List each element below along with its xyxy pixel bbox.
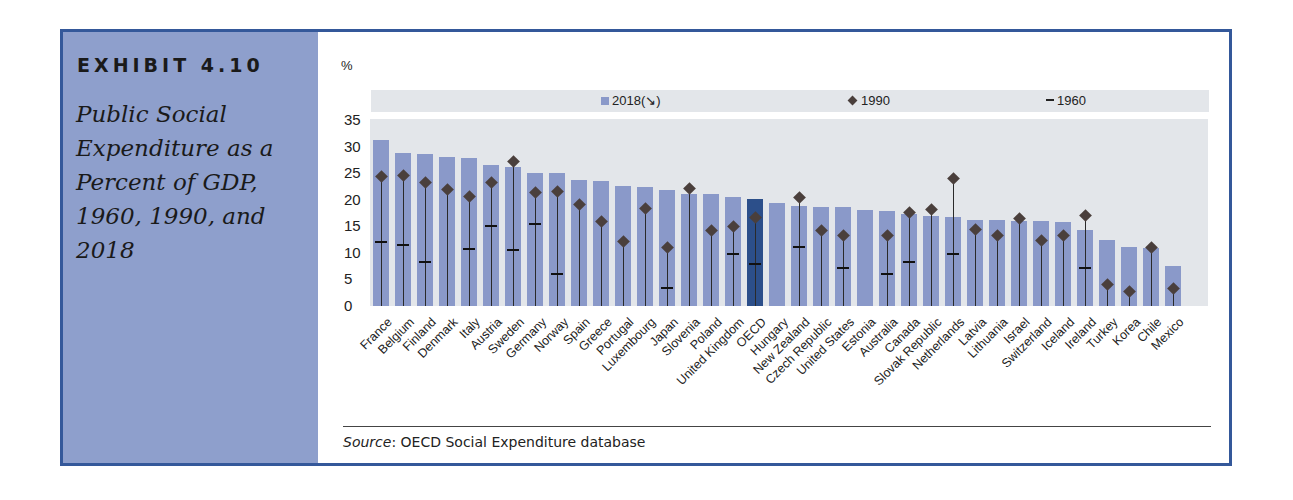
marker-1960 bbox=[463, 248, 475, 250]
y-tick-label: 5 bbox=[344, 270, 384, 287]
marker-1960 bbox=[793, 246, 805, 248]
stem-line bbox=[557, 191, 558, 306]
y-axis-unit: % bbox=[341, 58, 353, 73]
marker-1960 bbox=[661, 287, 673, 289]
stem-line bbox=[953, 179, 954, 306]
marker-1990 bbox=[1079, 209, 1092, 222]
source-note: Source: OECD Social Expenditure database bbox=[343, 434, 645, 450]
marker-1960 bbox=[1079, 267, 1091, 269]
stem-line bbox=[1019, 219, 1020, 306]
marker-1990 bbox=[507, 155, 520, 168]
stem-line bbox=[491, 183, 492, 306]
chart: % 2018(↘) 1990 1960 Source: OECD Social … bbox=[318, 32, 1229, 463]
marker-1960 bbox=[749, 263, 761, 265]
exhibit-title: Public Social Expenditure as a Percent o… bbox=[76, 97, 311, 267]
bar-2018 bbox=[769, 203, 785, 306]
legend-item-1960: 1960 bbox=[1046, 93, 1086, 108]
bar-2018 bbox=[857, 210, 873, 306]
stem-line bbox=[447, 189, 448, 306]
y-tick-label: 30 bbox=[344, 138, 384, 155]
marker-1990 bbox=[925, 203, 938, 216]
y-tick-label: 35 bbox=[344, 111, 384, 128]
stem-line bbox=[425, 182, 426, 306]
stem-line bbox=[975, 230, 976, 306]
legend-item-2018: 2018(↘) bbox=[601, 93, 661, 108]
stem-line bbox=[887, 235, 888, 306]
legend-item-1990: 1990 bbox=[849, 93, 890, 108]
exhibit-sidebar: EXHIBIT 4.10 Public Social Expenditure a… bbox=[63, 32, 318, 463]
stem-line bbox=[733, 227, 734, 306]
marker-1990 bbox=[793, 191, 806, 204]
stem-line bbox=[1041, 241, 1042, 306]
marker-1960 bbox=[727, 253, 739, 255]
marker-1960 bbox=[837, 267, 849, 269]
marker-1960 bbox=[529, 223, 541, 225]
stem-line bbox=[799, 198, 800, 306]
y-tick-label: 0 bbox=[344, 297, 384, 314]
stem-line bbox=[997, 235, 998, 306]
stem-line bbox=[931, 209, 932, 306]
marker-1960 bbox=[485, 225, 497, 227]
marker-1960 bbox=[551, 273, 563, 275]
legend: 2018(↘) 1990 1960 bbox=[371, 90, 1209, 112]
stem-line bbox=[1063, 235, 1064, 306]
exhibit-frame: EXHIBIT 4.10 Public Social Expenditure a… bbox=[60, 29, 1232, 466]
stem-line bbox=[689, 189, 690, 306]
stem-line bbox=[1151, 248, 1152, 306]
marker-1960 bbox=[507, 249, 519, 251]
marker-1960 bbox=[947, 253, 959, 255]
stem-line bbox=[667, 247, 668, 306]
bar-swatch-icon bbox=[601, 97, 609, 105]
stem-line bbox=[579, 204, 580, 306]
exhibit-label: EXHIBIT 4.10 bbox=[77, 54, 264, 76]
stem-line bbox=[645, 209, 646, 306]
marker-1960 bbox=[881, 273, 893, 275]
stem-line bbox=[909, 213, 910, 306]
marker-1990 bbox=[947, 172, 960, 185]
source-divider bbox=[343, 426, 1211, 427]
marker-1960 bbox=[419, 261, 431, 263]
stem-line bbox=[711, 230, 712, 306]
stem-line bbox=[513, 161, 514, 306]
plot-area bbox=[370, 119, 1208, 306]
stem-line bbox=[1085, 216, 1086, 306]
stem-line bbox=[535, 192, 536, 306]
marker-1960 bbox=[903, 261, 915, 263]
stem-line bbox=[601, 222, 602, 306]
y-tick-label: 15 bbox=[344, 217, 384, 234]
diamond-marker-icon bbox=[848, 96, 858, 106]
marker-1960 bbox=[397, 244, 409, 246]
stem-line bbox=[843, 235, 844, 306]
stem-line bbox=[403, 176, 404, 306]
y-tick-label: 10 bbox=[344, 244, 384, 261]
y-tick-label: 20 bbox=[344, 191, 384, 208]
dash-marker-icon bbox=[1046, 99, 1054, 101]
stem-line bbox=[623, 242, 624, 306]
y-tick-label: 25 bbox=[344, 164, 384, 181]
stem-line bbox=[821, 230, 822, 306]
stem-line bbox=[469, 196, 470, 306]
